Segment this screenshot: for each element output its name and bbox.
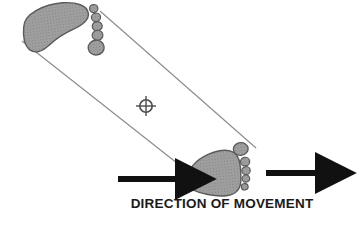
toe-little-lower — [241, 183, 248, 190]
lower-right-footprint — [183, 142, 253, 200]
caption-direction-of-movement: DIRECTION OF MOVEMENT — [0, 196, 358, 211]
centre-of-gravity-marker — [136, 96, 156, 116]
figure-canvas: DIRECTION OF MOVEMENT — [0, 0, 358, 233]
toe-little-upper — [89, 4, 98, 13]
toe-fourth-lower — [242, 175, 250, 183]
upper-left-footprint — [20, 0, 106, 65]
footprint-sole-upper — [20, 0, 93, 53]
toe-second-upper — [91, 30, 103, 41]
toe-third-lower — [241, 166, 250, 175]
toe-big-lower — [233, 142, 249, 156]
upper-line-of-direction — [100, 11, 256, 148]
lower-line-of-direction — [22, 41, 196, 178]
toe-fourth-upper — [91, 12, 101, 22]
footprint-sole-lower — [183, 149, 243, 200]
toe-second-lower — [240, 157, 250, 167]
toe-big-upper — [87, 39, 105, 56]
